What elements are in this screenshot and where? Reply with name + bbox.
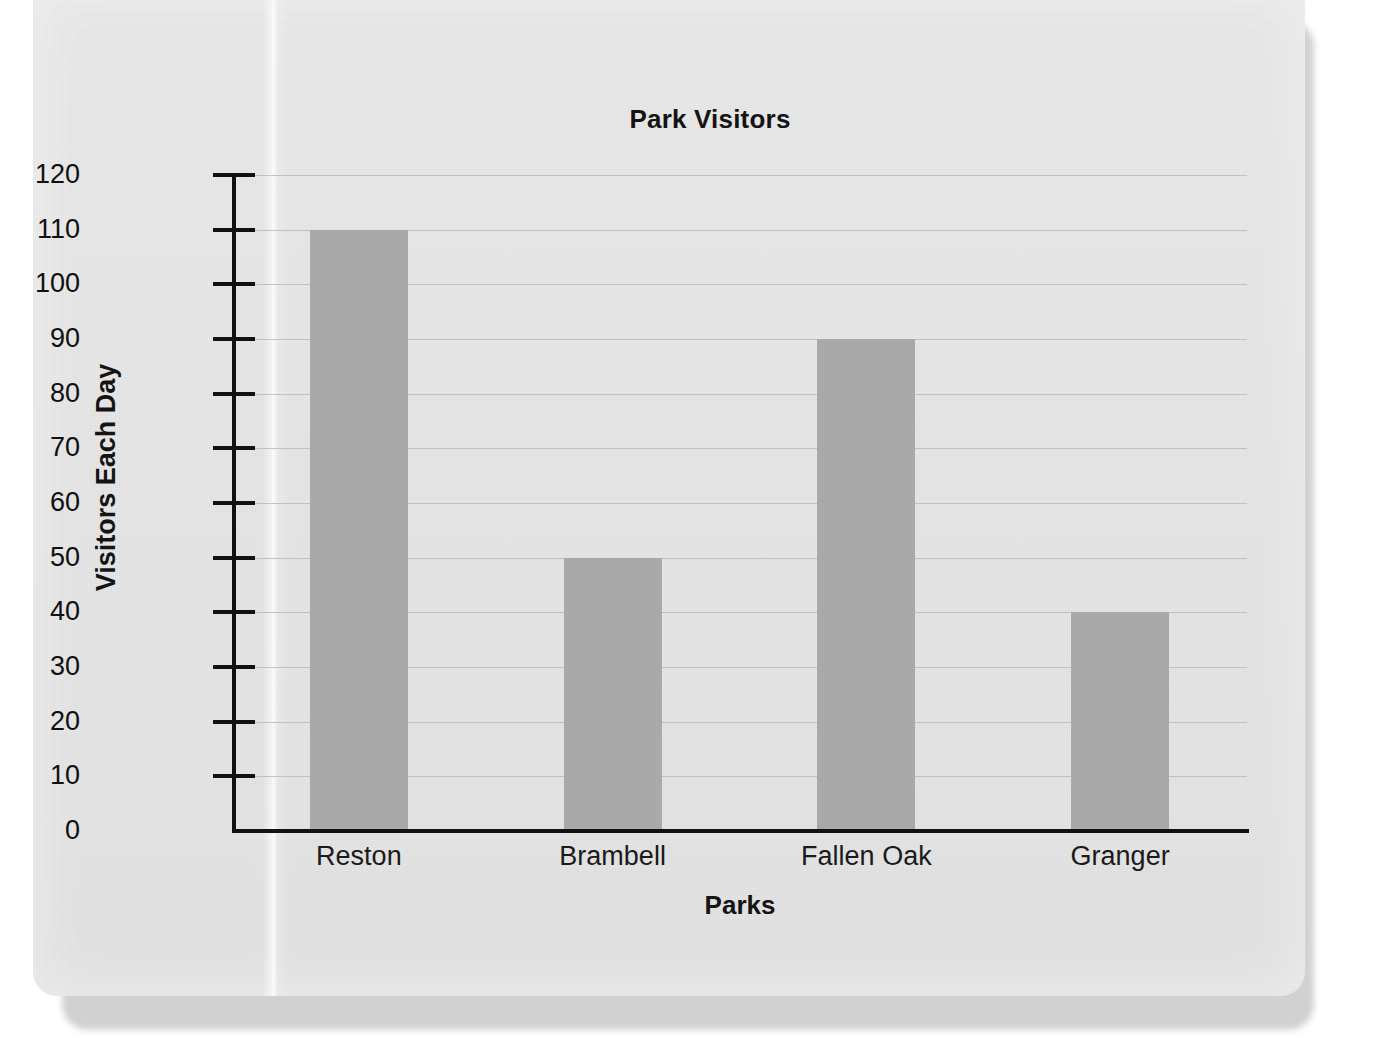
bar-granger [1071, 612, 1169, 831]
y-axis-tick-mark [213, 282, 255, 286]
bar-reston [310, 230, 408, 831]
y-axis-tick-label: 0 [0, 817, 80, 844]
y-axis-tick-label: 40 [0, 598, 80, 625]
bar-chart: Park Visitors Visitors Each Day Parks 01… [0, 0, 1382, 1046]
y-axis-tick-label: 110 [0, 216, 80, 243]
y-axis-tick-mark [213, 446, 255, 450]
y-axis-tick-mark [213, 501, 255, 505]
worksheet-scene: Park Visitors Visitors Each Day Parks 01… [0, 0, 1382, 1046]
y-axis-tick-label: 100 [0, 270, 80, 297]
y-axis-tick-mark [213, 556, 255, 560]
y-axis-label: Visitors Each Day [91, 318, 122, 638]
bar-fallen-oak [817, 339, 915, 831]
x-axis-category-label: Granger [970, 841, 1270, 872]
gridline [232, 175, 1247, 176]
y-axis-tick-label: 90 [0, 325, 80, 352]
y-axis-tick-mark [213, 337, 255, 341]
y-axis-tick-label: 30 [0, 653, 80, 680]
y-axis-tick-label: 20 [0, 708, 80, 735]
y-axis-tick-mark [213, 392, 255, 396]
y-axis-tick-label: 50 [0, 544, 80, 571]
y-axis-tick-label: 10 [0, 762, 80, 789]
y-axis-tick-mark [213, 665, 255, 669]
y-axis-tick-label: 60 [0, 489, 80, 516]
x-axis-spine [232, 829, 1249, 833]
y-axis-tick-mark [213, 774, 255, 778]
chart-title: Park Visitors [0, 104, 1382, 135]
plot-area [232, 175, 1247, 831]
y-axis-tick-label: 80 [0, 380, 80, 407]
bar-brambell [564, 558, 662, 831]
y-axis-tick-mark [213, 610, 255, 614]
y-axis-tick-mark [213, 720, 255, 724]
y-axis-tick-mark [213, 173, 255, 177]
y-axis-tick-label: 70 [0, 434, 80, 461]
y-axis-tick-mark [213, 228, 255, 232]
y-axis-tick-label: 120 [0, 161, 80, 188]
x-axis-label: Parks [232, 890, 1248, 921]
